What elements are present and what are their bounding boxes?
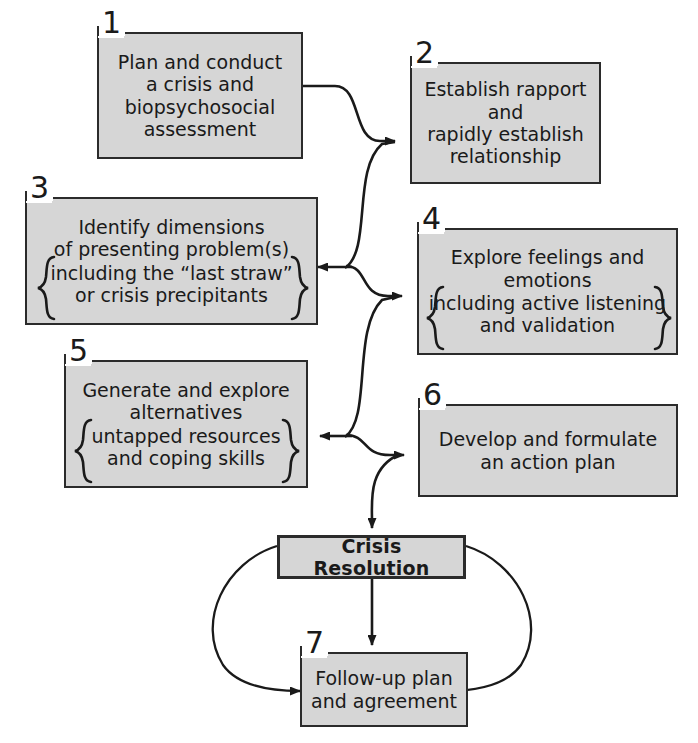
node-1-number: 1 [98, 8, 124, 38]
node-3-braced-label: including the “last straw” or crisis pre… [46, 262, 296, 307]
node-5-braced-label: untapped resources and coping skills [87, 425, 284, 470]
node-4-label: Explore feelings and emotions [447, 246, 649, 291]
node-1[interactable]: 1 Plan and conduct a crisis and biopsych… [97, 32, 303, 159]
node-5[interactable]: 5 Generate and explore alternatives unta… [64, 360, 308, 488]
node-4-braced-label: including active listening and validatio… [425, 292, 670, 337]
node-3-label: Identify dimensions of presenting proble… [50, 216, 293, 261]
connector-6-to-resolution [372, 454, 400, 528]
diagram-canvas: 1 Plan and conduct a crisis and biopsych… [0, 0, 698, 743]
node-3-corner-tick [25, 191, 27, 201]
node-3-number: 3 [26, 173, 52, 203]
node-7-number: 7 [301, 628, 327, 658]
connector-1-to-2 [303, 86, 395, 141]
node-2[interactable]: 2 Establish rapport and rapidly establis… [410, 62, 601, 184]
node-4-corner-tick [417, 222, 419, 232]
node-5-label: Generate and explore alternatives [78, 379, 293, 424]
node-6-corner-tick [418, 398, 420, 408]
node-1-label: Plan and conduct a crisis and biopsychos… [114, 51, 286, 141]
node-2-corner-tick [410, 56, 412, 66]
node-7-label: Follow-up plan and agreement [307, 667, 461, 712]
node-5-number: 5 [65, 336, 91, 366]
node-5-corner-tick [64, 354, 66, 364]
node-3[interactable]: 3 Identify dimensions of presenting prob… [25, 197, 318, 325]
connector-junction-to-6 [346, 435, 404, 455]
node-7-corner-tick [300, 646, 302, 656]
node-4-number: 4 [418, 204, 444, 234]
node-6[interactable]: 6 Develop and formulate an action plan [418, 404, 678, 497]
connector-6-to-4 [345, 297, 395, 437]
node-6-number: 6 [419, 380, 445, 410]
node-6-label: Develop and formulate an action plan [435, 428, 661, 473]
node-crisis-resolution-label: Crisis Resolution [280, 535, 463, 580]
node-4[interactable]: 4 Explore feelings and emotions includin… [417, 228, 678, 355]
node-7[interactable]: 7 Follow-up plan and agreement [300, 652, 468, 727]
connector-junction-to-4 [346, 266, 402, 296]
node-2-number: 2 [411, 38, 437, 68]
connector-4-to-2 [345, 142, 395, 268]
node-crisis-resolution[interactable]: Crisis Resolution [277, 535, 466, 579]
node-2-label: Establish rapport and rapidly establish … [420, 78, 590, 168]
node-1-corner-tick [97, 26, 99, 36]
